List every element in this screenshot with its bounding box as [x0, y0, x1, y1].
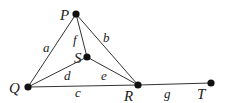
- vertex-label-P: P: [59, 7, 69, 23]
- edge-e: [87, 57, 138, 85]
- graph-diagram: abfdecgPSQRT: [0, 0, 229, 103]
- vertex-label-T: T: [197, 86, 207, 102]
- graph-canvas: abfdecgPSQRT: [0, 0, 229, 103]
- edge-label-f: f: [73, 32, 79, 47]
- edge-c: [28, 85, 138, 87]
- vertex-T: [207, 79, 214, 86]
- edge-label-e: e: [101, 68, 107, 83]
- vertex-S: [83, 53, 90, 60]
- edge-g: [138, 83, 211, 85]
- edge-label-a: a: [43, 40, 50, 55]
- vertex-Q: [24, 83, 31, 90]
- vertex-label-Q: Q: [9, 80, 20, 96]
- vertex-R: [134, 81, 141, 88]
- vertex-P: [72, 10, 79, 17]
- vertex-label-S: S: [74, 50, 82, 66]
- vertex-label-R: R: [123, 88, 133, 103]
- edge-label-d: d: [64, 68, 71, 83]
- edge-label-g: g: [164, 86, 171, 101]
- edge-label-b: b: [103, 30, 110, 45]
- edge-label-c: c: [75, 85, 81, 100]
